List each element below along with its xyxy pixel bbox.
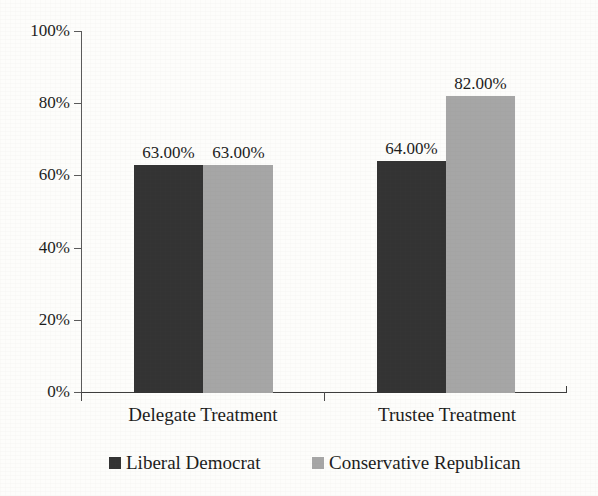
- y-tick-label-80: 80%: [2, 94, 70, 111]
- y-tick-label-100-wrap: 100%: [0, 22, 70, 39]
- legend-item-conservative-republican[interactable]: Conservative Republican: [312, 450, 521, 476]
- bar-delegate-conservative-republican[interactable]: [203, 165, 273, 393]
- plot-area: 63.00% 63.00% 64.00% 82.00%: [81, 31, 567, 393]
- value-label-trustee-conservative-republican: 82.00%: [436, 74, 525, 93]
- legend-swatch-gray-icon: [312, 457, 324, 469]
- y-tick-label-0: 0%: [2, 383, 70, 400]
- y-tick-40: [74, 248, 81, 249]
- legend: Liberal Democrat Conservative Republican: [81, 450, 567, 480]
- x-tick-group-divider: [324, 392, 325, 401]
- bar-trustee-conservative-republican[interactable]: [446, 96, 515, 393]
- y-tick-80: [74, 103, 81, 104]
- value-label-delegate-conservative-republican: 63.00%: [194, 143, 283, 162]
- y-tick-0: [74, 392, 81, 393]
- bar-chart: 100% 80% 60% 40% 20% 0% 63.00%: [0, 0, 598, 496]
- y-tick-label-40-wrap: 40%: [0, 239, 70, 256]
- y-tick-100: [74, 31, 81, 32]
- value-label-trustee-liberal-democrat: 64.00%: [367, 139, 456, 158]
- y-tick-label-40: 40%: [2, 239, 70, 256]
- y-tick-60: [74, 175, 81, 176]
- legend-swatch-dark-icon: [109, 457, 121, 469]
- legend-item-liberal-democrat[interactable]: Liberal Democrat: [109, 450, 261, 476]
- x-tick-start: [81, 392, 82, 401]
- legend-label-liberal-democrat: Liberal Democrat: [126, 452, 261, 474]
- legend-label-conservative-republican: Conservative Republican: [329, 452, 521, 474]
- y-tick-label-0-wrap: 0%: [0, 383, 70, 400]
- category-label-delegate-treatment: Delegate Treatment: [83, 404, 323, 426]
- y-tick-label-60-wrap: 60%: [0, 166, 70, 183]
- y-tick-label-80-wrap: 80%: [0, 94, 70, 111]
- y-tick-label-20: 20%: [2, 311, 70, 328]
- bar-trustee-liberal-democrat[interactable]: [377, 161, 446, 393]
- y-tick-label-60: 60%: [2, 166, 70, 183]
- category-label-trustee-treatment: Trustee Treatment: [327, 404, 567, 426]
- y-tick-label-100: 100%: [2, 22, 70, 39]
- y-tick-20: [74, 320, 81, 321]
- y-tick-label-20-wrap: 20%: [0, 311, 70, 328]
- bar-delegate-liberal-democrat[interactable]: [134, 165, 203, 393]
